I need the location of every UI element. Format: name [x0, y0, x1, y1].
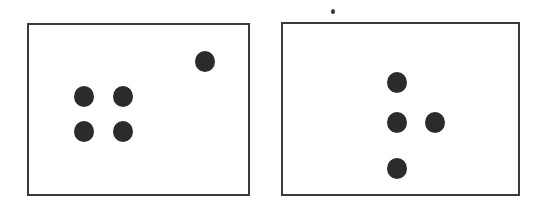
dot-right-3	[387, 158, 407, 179]
dot-left-2	[113, 86, 133, 107]
dot-left-4	[113, 121, 133, 142]
dot-left-0	[195, 51, 215, 72]
panel-left	[27, 23, 250, 196]
dot-right-1	[387, 112, 407, 133]
dot-left-3	[74, 121, 94, 142]
dot-right-2	[425, 112, 445, 133]
dot-left-1	[74, 86, 94, 107]
dot-right-0	[387, 72, 407, 93]
speck-0	[331, 9, 335, 14]
